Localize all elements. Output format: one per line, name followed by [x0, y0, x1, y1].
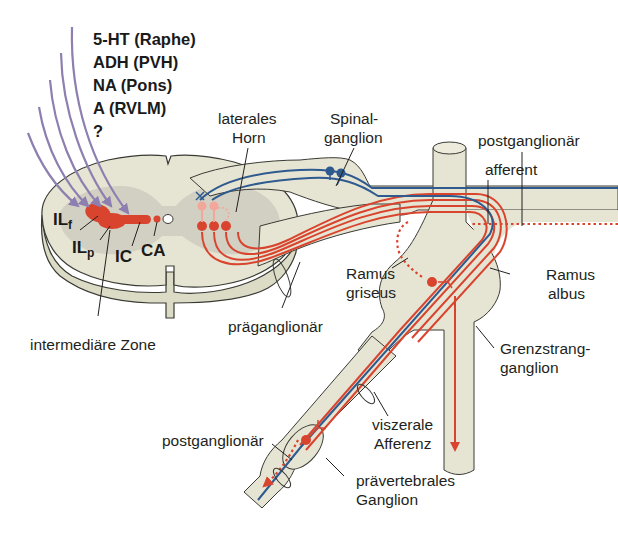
nucleus-ic [119, 215, 151, 224]
label-5ht-raphe: 5-HT (Raphe) [93, 30, 196, 48]
label-ramus-griseus-1: Ramus [346, 265, 395, 282]
label-afferent: afferent [485, 161, 538, 178]
label-lateral-horn-1: laterales [218, 110, 277, 127]
label-spinal-ganglion-2: ganglion [324, 129, 383, 146]
label-visceral-afferent-2: Afferenz [374, 435, 431, 452]
label-postganglionic-bottom: postganglionär [162, 432, 264, 449]
label-a-rvlm: A (RVLM) [93, 99, 166, 117]
label-prevertebral-ganglion-1: prävertebrales [356, 472, 455, 489]
label-ramus-albus-2: albus [548, 285, 585, 302]
label-ca: CA [141, 241, 166, 260]
label-ramus-albus-1: Ramus [546, 266, 595, 283]
label-preganglionic: präganglionär [228, 318, 323, 335]
descending-input-labels: 5-HT (Raphe) ADH (PVH) NA (Pons) A (RVLM… [93, 30, 196, 140]
label-ramus-griseus-2: griseus [346, 284, 396, 301]
label-postganglionic-top: postganglionär [478, 132, 580, 149]
label-sympathetic-trunk-ganglion-1: Grenzstrang- [500, 340, 590, 357]
label-adh-pvh: ADH (PVH) [93, 53, 178, 71]
label-unknown: ? [93, 122, 103, 140]
sympathetic-pathway-diagram: 5-HT (Raphe) ADH (PVH) NA (Pons) A (RVLM… [0, 0, 618, 543]
label-intermediate-zone: intermediäre Zone [30, 336, 156, 353]
label-spinal-ganglion-1: Spinal- [330, 110, 378, 127]
label-visceral-afferent-1: viszerale [372, 416, 433, 433]
label-na-pons: NA (Pons) [93, 76, 172, 94]
label-prevertebral-ganglion-2: Ganglion [356, 491, 418, 508]
label-sympathetic-trunk-ganglion-2: ganglion [500, 359, 559, 376]
label-lateral-horn-2: Horn [232, 129, 266, 146]
nucleus-ca [154, 216, 161, 223]
label-ic: IC [115, 247, 132, 266]
